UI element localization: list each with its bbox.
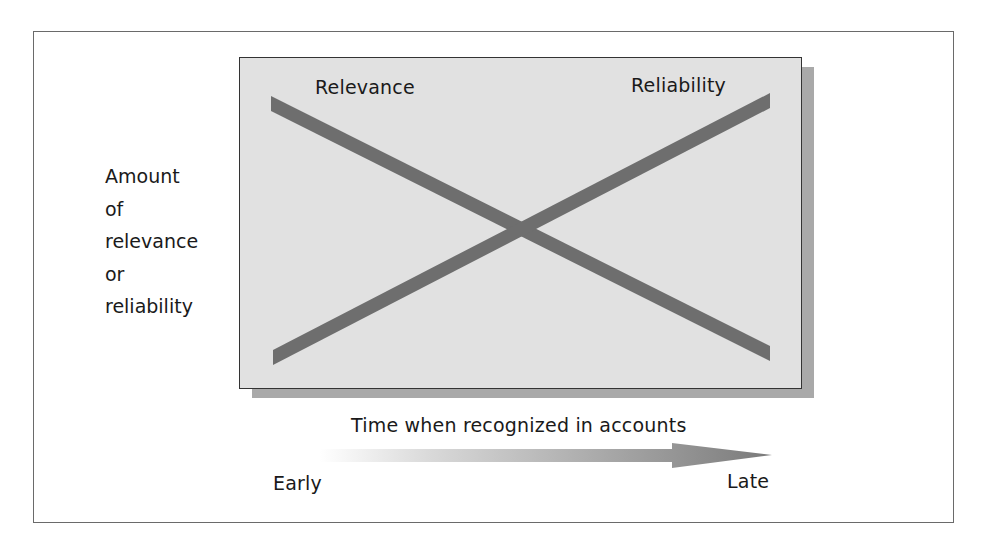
- time-arrow-icon: [0, 0, 986, 552]
- x-axis-end-label: Late: [727, 470, 769, 492]
- x-axis-start-label: Early: [273, 472, 322, 494]
